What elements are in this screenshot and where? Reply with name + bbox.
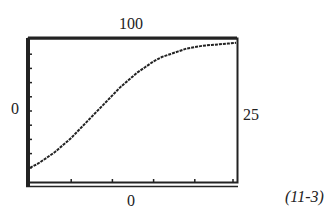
equation-reference: (11-3) — [285, 189, 324, 205]
data-curve — [30, 43, 236, 168]
y-min-label: 0 — [127, 193, 135, 209]
plot-frame — [26, 38, 238, 187]
y-max-label: 100 — [119, 16, 143, 32]
x-max-label: 25 — [243, 107, 259, 123]
x-min-label: 0 — [11, 101, 19, 117]
chart-plot — [0, 0, 335, 214]
